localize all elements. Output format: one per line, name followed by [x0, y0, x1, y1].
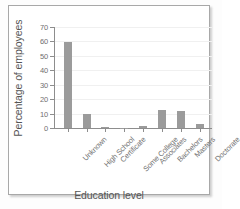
y-tick: [50, 99, 54, 100]
x-tick: [87, 128, 88, 132]
y-tick: [50, 114, 54, 115]
y-tick-label: 10: [40, 109, 48, 118]
bar: [177, 111, 185, 128]
gridline: [55, 56, 212, 57]
y-tick-label: 70: [40, 23, 48, 32]
y-tick-label: 40: [40, 66, 48, 75]
y-tick: [50, 70, 54, 71]
y-tick: [50, 56, 54, 57]
bar: [158, 110, 166, 128]
y-tick-label: 30: [40, 80, 48, 89]
x-tick: [162, 128, 163, 132]
y-axis-line: [54, 27, 55, 128]
x-tick: [200, 128, 201, 132]
x-tick: [143, 128, 144, 132]
bar: [83, 114, 91, 128]
x-axis-line: [54, 128, 212, 129]
y-tick: [50, 41, 54, 42]
x-axis-title: Education level: [9, 189, 209, 201]
x-tick-label: Unknown: [80, 135, 108, 163]
y-tick: [50, 27, 54, 28]
x-tick: [68, 128, 69, 132]
chart-panel: Percentage of employees Education level …: [8, 5, 210, 195]
y-tick-label: 60: [40, 37, 48, 46]
x-tick: [105, 128, 106, 132]
y-axis-title: Percentage of employees: [12, 20, 24, 137]
y-tick: [50, 128, 54, 129]
gridline: [55, 41, 212, 42]
x-tick: [181, 128, 182, 132]
gridline: [55, 99, 212, 100]
gridline: [55, 27, 212, 28]
figure: Percentage of employees Education level …: [0, 0, 222, 209]
y-tick-label: 50: [40, 51, 48, 60]
y-tick: [50, 85, 54, 86]
gridline: [55, 114, 212, 115]
y-tick-label: 0: [44, 124, 48, 133]
y-tick-label: 20: [40, 95, 48, 104]
x-tick: [124, 128, 125, 132]
plot-area: 010203040506070: [54, 27, 212, 128]
gridline: [55, 70, 212, 71]
bar: [64, 42, 72, 128]
gridline: [55, 85, 212, 86]
